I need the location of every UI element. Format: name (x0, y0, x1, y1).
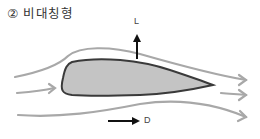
streamline-bottom (18, 102, 246, 117)
airfoil-diagram (0, 0, 260, 139)
airfoil-shape (62, 59, 213, 96)
lift-label: L (134, 16, 139, 26)
drag-label: D (144, 115, 151, 125)
